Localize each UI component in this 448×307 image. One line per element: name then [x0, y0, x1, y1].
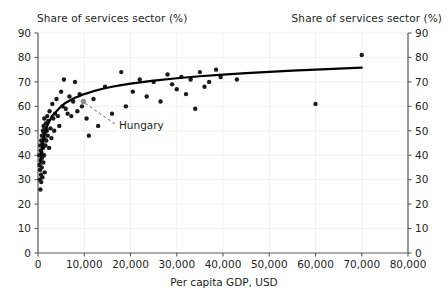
svg-text:10,000: 10,000 [66, 258, 103, 270]
svg-text:30: 30 [415, 173, 428, 185]
svg-text:50: 50 [415, 125, 428, 137]
svg-text:20,000: 20,000 [112, 258, 149, 270]
svg-text:10: 10 [415, 222, 428, 234]
svg-text:40,000: 40,000 [205, 258, 242, 270]
svg-text:20: 20 [18, 198, 31, 210]
svg-text:0: 0 [24, 247, 31, 259]
svg-text:60: 60 [18, 100, 31, 112]
annotation-label-hungary: Hungary [119, 119, 164, 131]
chart-container: Share of services sector (%) Share of se… [0, 0, 448, 307]
svg-text:50: 50 [18, 125, 31, 137]
svg-text:30: 30 [18, 173, 31, 185]
svg-text:60,000: 60,000 [297, 258, 334, 270]
svg-text:10: 10 [18, 222, 31, 234]
svg-text:60: 60 [415, 100, 428, 112]
svg-text:80,000: 80,000 [390, 258, 427, 270]
svg-text:40: 40 [18, 149, 31, 161]
x-axis-title: Per capita GDP, USD [0, 276, 448, 288]
annotation-layer: Hungary [81, 99, 164, 132]
data-points [37, 53, 364, 192]
svg-text:30,000: 30,000 [158, 258, 195, 270]
gridlines [38, 33, 408, 253]
svg-text:70: 70 [18, 76, 31, 88]
x-axis-labels: 010,00020,00030,00040,00050,00060,00070,… [35, 258, 427, 270]
y-axis-labels-right: 0102030405060708090 [415, 27, 428, 259]
svg-text:0: 0 [415, 247, 422, 259]
svg-text:40: 40 [415, 149, 428, 161]
svg-text:80: 80 [18, 51, 31, 63]
svg-text:20: 20 [415, 198, 428, 210]
scatter-plot: 0102030405060708090 0102030405060708090 … [0, 0, 448, 307]
svg-text:70: 70 [415, 76, 428, 88]
svg-text:50,000: 50,000 [251, 258, 288, 270]
svg-text:0: 0 [35, 258, 42, 270]
svg-text:90: 90 [415, 27, 428, 39]
y-axis-labels-left: 0102030405060708090 [18, 27, 31, 259]
svg-text:90: 90 [18, 27, 31, 39]
svg-text:80: 80 [415, 51, 428, 63]
svg-text:70,000: 70,000 [343, 258, 380, 270]
